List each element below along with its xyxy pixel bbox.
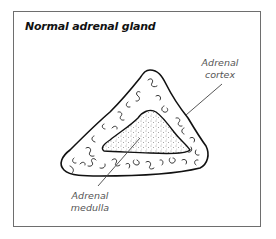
medulla-label-line1: Adrenal <box>66 190 114 202</box>
cortex-label-line1: Adrenal <box>194 57 246 69</box>
medulla-label: Adrenal medulla <box>66 190 114 214</box>
cortex-label-line2: cortex <box>194 69 246 81</box>
adrenal-gland-illustration <box>0 0 276 239</box>
cortex-label: Adrenal cortex <box>194 57 246 81</box>
cortex-leader-line <box>186 84 222 115</box>
medulla-label-line2: medulla <box>66 202 114 214</box>
